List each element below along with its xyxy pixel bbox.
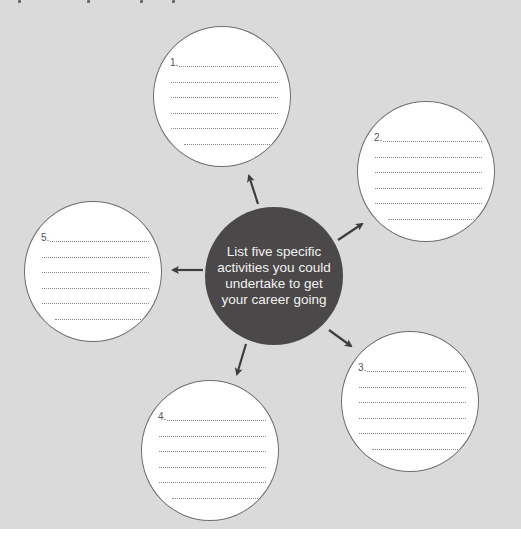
answer-line[interactable]: [159, 442, 266, 452]
answer-line[interactable]: [184, 135, 272, 145]
arrow-down-right-icon: [329, 330, 351, 346]
answer-line[interactable]: [159, 427, 266, 437]
answer-line[interactable]: [171, 119, 278, 129]
bubble-number: 1.: [170, 57, 178, 69]
answer-line[interactable]: [388, 210, 476, 220]
central-prompt-circle: List five specific activities you could …: [205, 207, 343, 345]
answer-line[interactable]: [42, 263, 149, 273]
answer-line[interactable]: [42, 294, 149, 304]
bubble-number: 4.: [158, 411, 166, 423]
activity-bubble-4: 4.: [141, 380, 279, 521]
answer-line[interactable]: [179, 57, 278, 67]
answer-line[interactable]: [372, 440, 460, 450]
answer-line[interactable]: [171, 88, 278, 98]
activity-bubble-5: 5.: [24, 201, 162, 342]
activity-bubble-1: 1.: [153, 26, 291, 167]
activity-bubble-3: 3.: [341, 331, 479, 472]
answer-line[interactable]: [167, 411, 266, 421]
answer-line[interactable]: [172, 489, 260, 499]
arrow-up-left-icon: [249, 176, 258, 204]
activity-bubble-2: 2.: [357, 101, 495, 242]
answer-line[interactable]: [359, 424, 466, 434]
bubble-number: 3.: [358, 362, 366, 374]
answer-line[interactable]: [159, 458, 266, 468]
answer-line[interactable]: [383, 132, 482, 142]
answer-line[interactable]: [359, 378, 466, 388]
arrow-down-left-icon: [237, 344, 246, 374]
answer-line[interactable]: [171, 104, 278, 114]
answer-line[interactable]: [159, 473, 266, 483]
answer-line[interactable]: [375, 194, 482, 204]
bubble-number: 5.: [41, 232, 49, 244]
answer-line[interactable]: [50, 232, 149, 242]
arrow-up-right-icon: [338, 224, 362, 240]
answer-line[interactable]: [367, 362, 466, 372]
answer-line[interactable]: [42, 248, 149, 258]
answer-line[interactable]: [375, 148, 482, 158]
central-prompt-text: List five specific activities you could …: [214, 244, 334, 308]
answer-line[interactable]: [375, 179, 482, 189]
bubble-number: 2.: [374, 132, 382, 144]
answer-line[interactable]: [55, 310, 143, 320]
answer-line[interactable]: [359, 393, 466, 403]
answer-line[interactable]: [375, 163, 482, 173]
answer-line[interactable]: [359, 409, 466, 419]
answer-line[interactable]: [42, 279, 149, 289]
answer-line[interactable]: [171, 73, 278, 83]
